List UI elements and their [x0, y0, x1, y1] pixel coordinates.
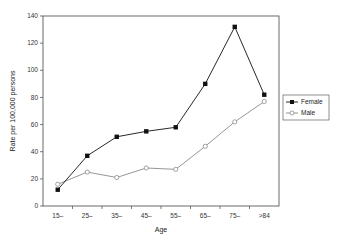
male-point — [85, 170, 89, 174]
x-axis: 15–25–35–45–55–65–75–>84 — [52, 206, 270, 219]
female-point — [203, 82, 207, 86]
plot-frame — [43, 16, 279, 206]
x-tick-label: 35– — [111, 212, 122, 219]
legend-female-label: Female — [301, 98, 323, 105]
x-axis-title: Age — [155, 226, 168, 234]
y-tick-label: 80 — [31, 94, 39, 101]
female-point — [233, 25, 237, 29]
y-tick-label: 60 — [31, 121, 39, 128]
female-point — [115, 135, 119, 139]
x-tick-label: 65– — [200, 212, 211, 219]
series-group — [56, 25, 267, 192]
y-tick-label: 100 — [27, 66, 38, 73]
y-axis: 020406080100120140 — [27, 12, 43, 209]
female-point — [85, 154, 89, 158]
y-axis-title: Rate per 100,000 persons — [9, 70, 17, 151]
y-tick-label: 120 — [27, 39, 38, 46]
y-tick-label: 20 — [31, 175, 39, 182]
male-point — [115, 175, 119, 179]
male-point — [144, 166, 148, 170]
male-point — [262, 99, 266, 103]
female-point — [56, 188, 60, 192]
y-tick-label: 140 — [27, 12, 38, 19]
male-point — [203, 144, 207, 148]
y-tick-label: 40 — [31, 148, 39, 155]
legend-female-marker — [290, 100, 294, 104]
y-tick-label: 0 — [34, 202, 38, 209]
x-tick-label: 25– — [82, 212, 93, 219]
male-point — [233, 120, 237, 124]
x-tick-label: 15– — [52, 212, 63, 219]
x-tick-label: 55– — [170, 212, 181, 219]
line-chart: 020406080100120140 15–25–35–45–55–65–75–… — [0, 0, 337, 243]
legend: FemaleMale — [283, 95, 329, 120]
legend-male-label: Male — [301, 109, 315, 116]
female-point — [262, 93, 266, 97]
x-tick-label: >84 — [259, 212, 270, 219]
x-tick-label: 75– — [229, 212, 240, 219]
x-tick-label: 45– — [141, 212, 152, 219]
female-point — [174, 125, 178, 129]
female-line — [58, 27, 265, 190]
legend-male-marker — [290, 111, 294, 115]
female-point — [144, 129, 148, 133]
male-point — [174, 167, 178, 171]
male-point — [56, 182, 60, 186]
